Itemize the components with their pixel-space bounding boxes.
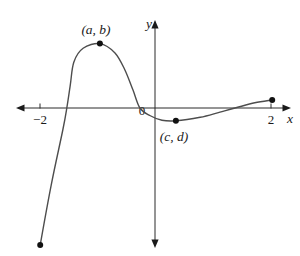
x-axis-left-arrow-icon (16, 104, 25, 111)
figure-canvas: −2 2 x y 0 (a, b) (c, d) (0, 0, 300, 256)
y-axis-label: y (144, 16, 152, 31)
y-axis: y (144, 16, 159, 248)
y-axis-bottom-arrow-icon (151, 240, 158, 249)
max-point-label: (a, b) (81, 22, 111, 37)
data-point (269, 97, 275, 103)
x-tick-label-pos2: 2 (268, 112, 275, 127)
function-graph: −2 2 x y 0 (a, b) (c, d) (0, 0, 300, 256)
marked-points (37, 41, 275, 248)
data-point (173, 118, 179, 124)
y-axis-top-arrow-icon (151, 20, 158, 29)
x-tick-label-neg2: −2 (33, 112, 47, 127)
function-curve (40, 43, 272, 244)
min-point-label: (c, d) (160, 129, 189, 144)
data-point (97, 41, 103, 47)
data-point (37, 242, 43, 248)
x-axis-label: x (286, 111, 293, 126)
